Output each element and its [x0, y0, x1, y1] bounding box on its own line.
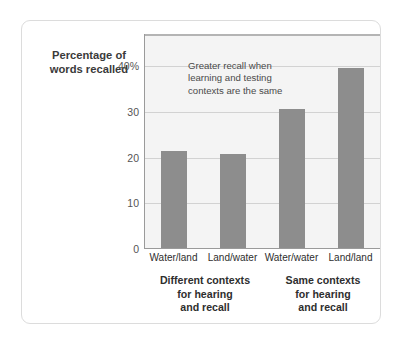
- chart-card: Percentage of words recalled 010203040% …: [21, 20, 381, 324]
- category-label-land-water: Land/water: [201, 252, 265, 263]
- y-tick-label-30: 30: [127, 106, 139, 118]
- annotation-line-2: learning and testing: [188, 72, 282, 84]
- y-axis-line: [144, 34, 145, 249]
- x-axis-line: [144, 248, 380, 250]
- bar-water-water[interactable]: [279, 109, 305, 249]
- bar-water-land[interactable]: [161, 151, 187, 249]
- annotation-line-3: contexts are the same: [188, 85, 282, 97]
- group-label-2-line-3: and recall: [262, 301, 381, 315]
- y-tick-label-40: 40%: [118, 60, 139, 72]
- y-tick-label-0: 0: [133, 243, 139, 255]
- group-label-2-line-1: Same contexts: [262, 274, 381, 288]
- category-label-water-land: Water/land: [142, 252, 206, 263]
- y-tick-label-20: 20: [127, 152, 139, 164]
- group-label-1-line-3: and recall: [144, 301, 266, 315]
- y-tick-label-10: 10: [127, 197, 139, 209]
- group-label-2-line-2: for hearing: [262, 288, 381, 302]
- chart-annotation: Greater recall when learning and testing…: [188, 60, 282, 97]
- bar-land-water[interactable]: [220, 154, 246, 249]
- group-label-same-contexts: Same contexts for hearing and recall: [262, 274, 381, 315]
- group-label-1-line-1: Different contexts: [144, 274, 266, 288]
- group-label-1-line-2: for hearing: [144, 288, 266, 302]
- plot-top-rule: [144, 34, 380, 36]
- bar-land-land[interactable]: [338, 68, 364, 249]
- category-label-water-water: Water/water: [260, 252, 324, 263]
- annotation-line-1: Greater recall when: [188, 60, 282, 72]
- category-label-land-land: Land/land: [319, 252, 382, 263]
- x-axis-category-labels: Water/landLand/waterWater/waterLand/land: [144, 252, 380, 268]
- plot-area: 010203040% Greater recall when learning …: [144, 34, 380, 249]
- group-label-different-contexts: Different contexts for hearing and recal…: [144, 274, 266, 315]
